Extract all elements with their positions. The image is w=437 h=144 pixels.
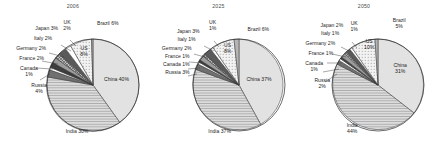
label-uk-2050: UK1% [347, 20, 361, 32]
label-japan-2025: Japan 3% [160, 28, 200, 34]
label-uk-2025: UK1% [206, 19, 220, 31]
label-india-2025: India 37% [198, 128, 242, 134]
label-china-2006: China 40% [104, 76, 129, 82]
chart-title-2006: 2006 [0, 3, 146, 9]
label-france-2050: France 1% [291, 50, 333, 56]
label-italy-2006: Italy 2% [18, 35, 52, 41]
label-china-2050: China31% [387, 62, 413, 74]
label-brazil-2025: Brazil 6% [248, 26, 270, 32]
pie-svg-2006 [46, 38, 140, 132]
pie-svg-2050 [331, 38, 425, 132]
label-china-2025: China 37% [247, 76, 272, 82]
pie-chart-2050: 2050 [291, 0, 437, 144]
pie-svg-2025 [192, 38, 286, 132]
label-canada-2006: Canada1% [14, 65, 44, 77]
label-italy-2050: Italy 1% [299, 30, 339, 36]
pie-figure-2050 [331, 38, 425, 132]
label-us-2006: US8% [76, 45, 92, 57]
label-japan-2006: Japan 3% [18, 25, 58, 31]
label-india-2006: India 30% [55, 128, 99, 134]
label-germany-2025: Germany 2% [146, 45, 192, 51]
label-canada-2050: Canada1% [299, 60, 329, 72]
label-india-2050: India44% [337, 122, 367, 134]
label-russia-2025: Russia 3% [148, 69, 190, 75]
pie-figure-2025 [192, 38, 286, 132]
pie-chart-2025: 2025 [146, 0, 292, 144]
label-france-2006: France 2% [4, 55, 44, 61]
label-germany-2050: Germany 2% [291, 40, 335, 46]
label-russia-2006: Russia4% [24, 82, 54, 94]
label-france-2025: France 1% [150, 53, 190, 59]
label-brazil-2006: Brazil 6% [97, 20, 119, 26]
label-us-2025: US8% [220, 42, 236, 54]
pie-chart-2006: 2006 [0, 0, 146, 144]
label-brazil-2050: Brazil5% [385, 17, 413, 29]
pie-chart-panel: 2006 [0, 0, 437, 144]
label-italy-2025: Italy 1% [160, 36, 196, 42]
label-uk-2006: UK2% [60, 19, 74, 31]
pie-figure-2006 [46, 38, 140, 132]
chart-title-2050: 2050 [291, 3, 437, 9]
label-us-2050: US10% [360, 38, 378, 50]
label-germany-2006: Germany 2% [0, 45, 46, 51]
chart-title-2025: 2025 [146, 3, 292, 9]
label-japan-2050: Japan 2% [299, 22, 343, 28]
label-canada-2025: Canada 1% [148, 61, 190, 67]
label-russia-2050: Russia2% [307, 77, 337, 89]
